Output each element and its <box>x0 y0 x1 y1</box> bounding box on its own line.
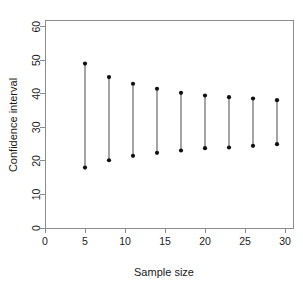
y-tick-label: 10 <box>30 188 42 200</box>
interval-upper-dot <box>251 96 255 100</box>
interval-lower-dot <box>107 158 111 162</box>
interval-upper-dot <box>107 75 111 79</box>
interval-lower-dot <box>179 148 183 152</box>
interval-lower-dot <box>275 142 279 146</box>
x-tick-label: 15 <box>159 235 171 247</box>
y-tick-label: 20 <box>30 155 42 167</box>
interval-lower-dot <box>131 154 135 158</box>
y-axis-title: Confidence interval <box>7 78 19 172</box>
x-tick-label: 30 <box>279 235 291 247</box>
interval-upper-dot <box>131 82 135 86</box>
x-tick-label: 10 <box>119 235 131 247</box>
interval-lower-dot <box>83 166 87 170</box>
interval-upper-dot <box>179 91 183 95</box>
x-axis-title: Sample size <box>134 266 194 278</box>
plot-area: 0102030405060 051015202530 Sample size C… <box>0 0 303 288</box>
x-tick-label: 20 <box>199 235 211 247</box>
interval-upper-dot <box>203 93 207 97</box>
confidence-interval-chart: 0102030405060 051015202530 Sample size C… <box>0 0 303 288</box>
y-tick-label: 40 <box>30 88 42 100</box>
x-tick-label: 0 <box>42 235 48 247</box>
interval-upper-dot <box>227 95 231 99</box>
x-tick-label: 25 <box>239 235 251 247</box>
y-tick-label: 0 <box>30 225 42 231</box>
y-tick-label: 30 <box>30 121 42 133</box>
interval-lower-dot <box>155 151 159 155</box>
interval-upper-dot <box>275 98 279 102</box>
y-tick-label: 60 <box>30 21 42 33</box>
interval-lower-dot <box>203 146 207 150</box>
interval-upper-dot <box>155 87 159 91</box>
y-tick-label: 50 <box>30 54 42 66</box>
interval-upper-dot <box>83 62 87 66</box>
x-tick-label: 5 <box>82 235 88 247</box>
interval-lower-dot <box>227 145 231 149</box>
interval-lower-dot <box>251 144 255 148</box>
